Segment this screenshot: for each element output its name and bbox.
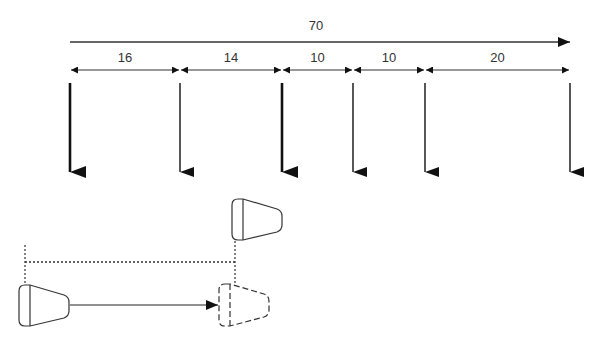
raised-cup-shape	[232, 199, 282, 240]
segment-dimension: 16	[71, 50, 179, 70]
segment-dimension: 10	[283, 50, 352, 70]
segment-dimensions: 1614101020	[71, 50, 569, 70]
vertical-load-arrows	[70, 83, 570, 172]
segment-label: 20	[490, 50, 504, 65]
target-cup-dashed-shape	[219, 284, 269, 326]
segment-label: 14	[224, 50, 238, 65]
total-length-dimension: 70	[70, 18, 570, 42]
segment-label: 16	[118, 50, 132, 65]
segment-label: 10	[310, 50, 324, 65]
start-cup-shape	[19, 285, 69, 326]
segment-label: 10	[382, 50, 396, 65]
total-length-label: 70	[309, 18, 323, 33]
cup-displacement-illustration	[19, 199, 282, 326]
dimension-diagram: 70 1614101020	[0, 0, 603, 349]
segment-dimension: 20	[426, 50, 569, 70]
segment-dimension: 10	[354, 50, 424, 70]
segment-dimension: 14	[181, 50, 281, 70]
